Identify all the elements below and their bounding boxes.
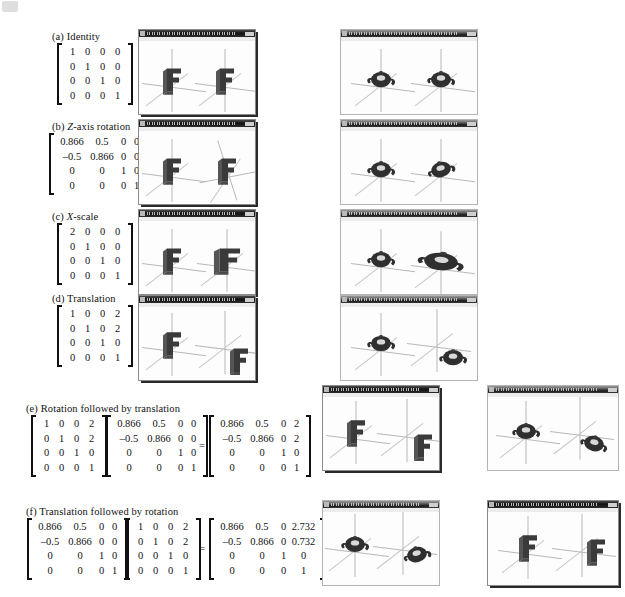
app-icon <box>140 211 145 216</box>
matrix-cell: 0 <box>117 179 130 193</box>
matrix-f-2: 1 0 0 2 0 1 0 2 0 0 1 0 0 0 0 1 <box>124 518 202 580</box>
window-titlebar[interactable] <box>139 296 255 303</box>
caption-f-prefix: (f) <box>26 506 39 517</box>
window-b-left[interactable] <box>138 119 256 205</box>
window-f-left[interactable] <box>322 500 440 586</box>
matrix-cell: 0 <box>133 549 148 563</box>
gl-canvas-c-left[interactable] <box>139 221 255 294</box>
gl-canvas-f-right[interactable] <box>488 512 618 585</box>
window-title-text <box>147 212 236 215</box>
matrix-cell: 0 <box>217 564 247 578</box>
matrix-cell: 0 <box>110 336 125 350</box>
matrix-cell: 1 <box>187 461 200 475</box>
matrix-cell: 2 <box>110 307 125 321</box>
gl-canvas-a-left[interactable] <box>139 41 255 114</box>
matrix-cell: 0 <box>277 417 290 431</box>
gl-canvas-d-right[interactable] <box>341 307 477 380</box>
window-titlebar[interactable] <box>323 386 439 393</box>
window-b-right[interactable] <box>340 119 478 205</box>
matrix-cell: 0 <box>80 336 95 350</box>
page-corner-artifact <box>2 1 18 12</box>
window-controls[interactable] <box>429 388 438 392</box>
window-c-right[interactable] <box>340 209 478 295</box>
matrix-cell: 0 <box>110 74 125 88</box>
window-controls[interactable] <box>467 298 476 302</box>
window-titlebar[interactable] <box>323 501 439 508</box>
bracket-left <box>56 305 62 367</box>
window-a-left[interactable] <box>138 29 256 115</box>
matrix-cell: 0 <box>148 549 163 563</box>
window-title-text <box>331 388 420 391</box>
matrix-cell: 0 <box>247 461 277 475</box>
matrix-cell: 0 <box>80 269 95 283</box>
matrix-cell: 0 <box>217 549 247 563</box>
matrix-cell: 0 <box>290 549 317 563</box>
window-controls[interactable] <box>245 32 254 36</box>
app-icon <box>489 502 494 507</box>
gl-canvas-e-left[interactable] <box>323 397 439 470</box>
app-icon <box>342 211 347 216</box>
matrix-cell: 0 <box>144 461 174 475</box>
window-titlebar[interactable] <box>139 210 255 217</box>
gl-canvas-b-right[interactable] <box>341 131 477 204</box>
window-shadow <box>141 115 258 117</box>
window-titlebar[interactable] <box>341 120 477 127</box>
window-controls[interactable] <box>608 388 617 392</box>
bracket-left <box>208 518 214 580</box>
window-controls[interactable] <box>467 32 476 36</box>
window-titlebar[interactable] <box>139 120 255 127</box>
matrix-cell: –0.5 <box>217 535 247 549</box>
matrix-cell: 0 <box>69 432 84 446</box>
gl-canvas-f-left[interactable] <box>323 512 439 585</box>
window-controls[interactable] <box>245 212 254 216</box>
window-controls[interactable] <box>608 503 617 507</box>
window-shadow <box>440 388 442 473</box>
caption-d-text: Translation <box>67 293 116 304</box>
window-controls[interactable] <box>245 122 254 126</box>
matrix-cell: 0 <box>108 549 121 563</box>
window-title-text <box>349 298 458 301</box>
matrix-c-grid: 2 0 0 0 0 1 0 0 0 0 1 0 0 0 0 1 <box>62 223 128 285</box>
window-titlebar[interactable] <box>341 210 477 217</box>
matrix-cell: 1 <box>65 307 80 321</box>
window-controls[interactable] <box>467 122 476 126</box>
window-e-left[interactable] <box>322 385 440 471</box>
matrix-cell: 0 <box>80 89 95 103</box>
app-icon <box>140 297 145 302</box>
window-a-right[interactable] <box>340 29 478 115</box>
window-titlebar[interactable] <box>341 296 477 303</box>
window-controls[interactable] <box>245 298 254 302</box>
caption-e-text: Rotation followed by translation <box>41 403 180 414</box>
window-d-right[interactable] <box>340 295 478 381</box>
caption-e-prefix: (e) <box>26 403 41 414</box>
window-controls[interactable] <box>429 503 438 507</box>
matrix-cell: 2 <box>84 417 99 431</box>
window-c-left[interactable] <box>138 209 256 295</box>
bracket-right <box>306 415 312 477</box>
window-titlebar[interactable] <box>139 30 255 37</box>
matrix-cell: 2 <box>290 432 303 446</box>
caption-e: (e) Rotation followed by translation <box>26 403 180 414</box>
window-titlebar[interactable] <box>341 30 477 37</box>
matrix-f-2-grid: 1 0 0 2 0 1 0 2 0 0 1 0 0 0 0 1 <box>130 518 196 580</box>
matrix-cell: 0 <box>80 307 95 321</box>
matrix-cell: 0 <box>35 549 65 563</box>
gl-canvas-c-right[interactable] <box>341 221 477 294</box>
matrix-cell: 0 <box>178 549 193 563</box>
window-titlebar[interactable] <box>488 501 618 508</box>
window-d-left[interactable] <box>138 295 256 381</box>
window-f-right[interactable] <box>487 500 619 586</box>
window-e-right[interactable] <box>487 385 619 471</box>
matrix-cell: 0 <box>95 351 110 365</box>
matrix-cell: 0.5 <box>247 520 277 534</box>
matrix-cell: 0 <box>217 461 247 475</box>
gl-canvas-e-right[interactable] <box>488 397 618 470</box>
matrix-cell: 0 <box>290 446 303 460</box>
gl-canvas-d-left[interactable] <box>139 307 255 380</box>
matrix-cell: 0 <box>163 535 178 549</box>
gl-canvas-b-left[interactable] <box>139 131 255 204</box>
matrix-cell: 0 <box>174 417 187 431</box>
gl-canvas-a-right[interactable] <box>341 41 477 114</box>
window-controls[interactable] <box>467 212 476 216</box>
window-titlebar[interactable] <box>488 386 618 393</box>
